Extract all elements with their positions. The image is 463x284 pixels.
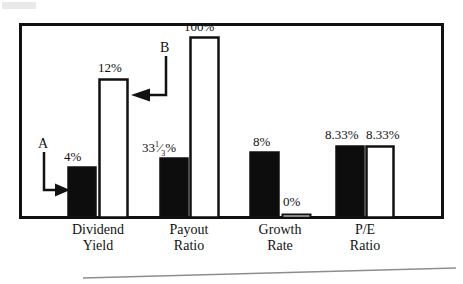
callout-b-leader [131, 56, 166, 102]
value-label-dividend-yield-a: 4% [64, 150, 81, 163]
bar-chart-figure: 4% 12% 331⁄3% 100% 8% 0% 8.33% 8.33% A B… [0, 0, 463, 284]
bar-dividend-yield-b [100, 80, 128, 218]
category-label-line1: Dividend [72, 222, 124, 237]
bar-pe-ratio-a [336, 146, 364, 217]
category-label-line2: Rate [244, 239, 316, 253]
category-label-line2: Ratio [329, 239, 401, 253]
callout-label-b: B [160, 41, 169, 55]
bar-payout-ratio-a [160, 158, 188, 217]
category-label-line2: Yield [62, 239, 134, 253]
value-label-pe-ratio-b: 8.33% [366, 128, 400, 141]
value-label-payout-ratio-a: 331⁄3% [142, 141, 176, 154]
category-label-line1: P/E [355, 222, 375, 237]
callout-label-a: A [38, 137, 48, 151]
scan-artifact-top [2, 2, 36, 9]
category-label-growth-rate: Growth Rate [244, 223, 316, 253]
payout-frac-numerator: 1 [155, 140, 159, 149]
value-label-dividend-yield-b: 12% [98, 61, 122, 74]
category-label-line1: Growth [259, 222, 302, 237]
bar-dividend-yield-a [68, 167, 96, 217]
value-label-payout-ratio-b: 100% [184, 20, 214, 33]
category-label-payout-ratio: Payout Ratio [153, 223, 225, 253]
page-edge-artifact [83, 268, 456, 278]
bar-payout-ratio-b [191, 38, 219, 218]
payout-percent-sign: % [165, 140, 176, 155]
payout-whole: 33 [142, 140, 155, 155]
value-label-pe-ratio-a: 8.33% [325, 128, 359, 141]
category-label-pe-ratio: P/E Ratio [329, 223, 401, 253]
category-label-line1: Payout [170, 222, 209, 237]
category-label-line2: Ratio [153, 239, 225, 253]
bar-pe-ratio-b [367, 147, 394, 218]
value-label-growth-rate-a: 8% [253, 135, 270, 148]
category-label-dividend-yield: Dividend Yield [62, 223, 134, 253]
bar-growth-rate-b [283, 215, 311, 218]
bar-growth-rate-a [250, 152, 279, 217]
value-label-growth-rate-b: 0% [283, 195, 300, 208]
